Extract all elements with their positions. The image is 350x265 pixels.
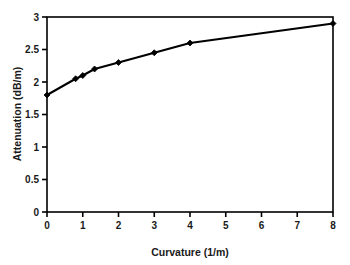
x-tick-label: 1 <box>80 220 86 231</box>
y-tick-label: 2 <box>33 77 39 88</box>
data-series-line <box>47 24 333 96</box>
y-tick-label: 0 <box>33 207 39 218</box>
y-tick-label: 1 <box>33 142 39 153</box>
y-tick-label: 0.5 <box>25 174 39 185</box>
data-point-marker <box>330 21 336 27</box>
chart-figure: 00.511.522.53 012345678 Curvature (1/m) … <box>0 0 350 265</box>
x-axis-tick-labels: 012345678 <box>44 220 336 231</box>
y-tick-label: 1.5 <box>25 109 39 120</box>
data-point-marker <box>187 40 193 46</box>
y-axis-tick-labels: 00.511.522.53 <box>25 12 39 218</box>
x-tick-label: 2 <box>116 220 122 231</box>
x-tick-label: 7 <box>294 220 300 231</box>
x-tick-label: 3 <box>151 220 157 231</box>
x-tick-label: 5 <box>223 220 229 231</box>
y-axis-title: Attenuation (dB/m) <box>11 67 23 162</box>
x-tick-label: 0 <box>44 220 50 231</box>
y-tick-label: 3 <box>33 12 39 23</box>
chart-plot-svg: 00.511.522.53 012345678 Curvature (1/m) … <box>0 0 350 265</box>
y-tick-label: 2.5 <box>25 44 39 55</box>
x-tick-label: 4 <box>187 220 193 231</box>
data-series-markers <box>44 21 336 99</box>
x-tick-label: 8 <box>330 220 336 231</box>
x-axis-title: Curvature (1/m) <box>151 246 229 258</box>
data-point-marker <box>116 60 122 66</box>
x-tick-label: 6 <box>259 220 265 231</box>
data-point-marker <box>151 50 157 56</box>
